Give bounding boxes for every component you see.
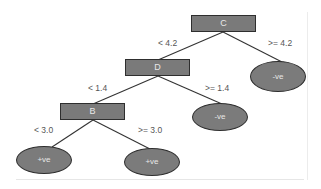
node-b: B [60, 103, 125, 120]
node-d: D [125, 59, 190, 76]
leaf-c-right: -ve [250, 61, 306, 92]
node-c: C [191, 15, 256, 32]
edge-label-b-right: >= 3.0 [138, 125, 162, 135]
leaf-b-right: +ve [124, 148, 180, 176]
leaf-d-right: -ve [192, 103, 248, 131]
edge-label-b-left: < 3.0 [34, 125, 53, 135]
edge-b-leaf-left [52, 120, 93, 147]
edge-label-c-right: >= 4.2 [268, 38, 292, 48]
edge-label-d-left: < 1.4 [88, 83, 107, 93]
leaf-b-left: +ve [16, 146, 72, 174]
edge-label-c-left: < 4.2 [158, 38, 177, 48]
edge-label-d-right: >= 1.4 [205, 83, 229, 93]
